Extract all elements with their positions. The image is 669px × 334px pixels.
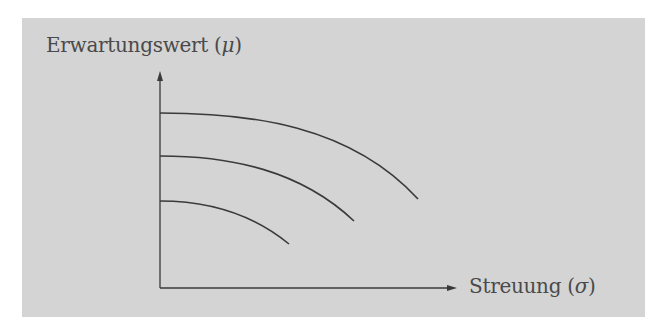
curve-high [160, 113, 418, 199]
y-axis-label: Erwartungswert (μ) [46, 33, 242, 57]
x-axis-label: Streuung (σ) [469, 274, 596, 298]
y-axis [157, 71, 163, 288]
x-axis-symbol: σ [575, 274, 588, 298]
y-axis-symbol: μ [222, 33, 235, 57]
x-axis-label-text: Streuung [469, 274, 561, 298]
x-axis-arrowhead-icon [447, 285, 457, 291]
y-axis-label-text: Erwartungswert [46, 33, 208, 57]
curve-middle [160, 156, 354, 221]
x-axis [160, 285, 457, 291]
y-axis-arrowhead-icon [157, 71, 163, 81]
curve-low [160, 201, 289, 244]
